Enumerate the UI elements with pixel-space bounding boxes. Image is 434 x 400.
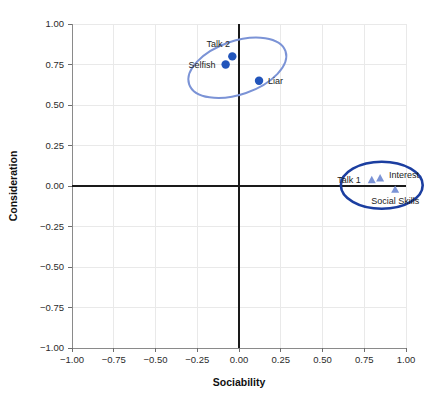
x-axis-tick-labels: −1.00−0.75−0.50−0.250.000.250.500.751.00: [60, 354, 415, 365]
x-tick-label: 0.00: [230, 354, 249, 365]
x-tick-label: 0.75: [355, 354, 374, 365]
data-markers: [221, 52, 399, 193]
y-tick-label: 1.00: [46, 18, 65, 29]
x-axis-title: Sociability: [213, 376, 266, 388]
chart-canvas: Talk 2SelfishLiarTalk 1InterestSocial Sk…: [0, 0, 434, 400]
tick-marks: [68, 24, 406, 352]
data-point-label: Talk 1: [337, 175, 361, 185]
data-point-label: Interest: [389, 170, 420, 180]
y-tick-label: −0.25: [40, 221, 64, 232]
scatter-plot-figure: Talk 2SelfishLiarTalk 1InterestSocial Sk…: [0, 0, 434, 400]
data-point-label: Selfish: [189, 60, 216, 70]
data-point-circle: [255, 77, 263, 85]
y-tick-label: 0.75: [46, 59, 65, 70]
x-tick-label: −0.50: [143, 354, 167, 365]
x-tick-label: 0.50: [313, 354, 332, 365]
data-point-triangle: [376, 174, 384, 181]
x-tick-label: −0.75: [102, 354, 126, 365]
y-tick-label: −0.75: [40, 302, 64, 313]
x-tick-label: 0.25: [272, 354, 291, 365]
y-tick-label: 0.00: [46, 180, 65, 191]
y-axis-title: Consideration: [7, 151, 19, 222]
y-tick-label: 0.50: [46, 99, 65, 110]
data-point-circle: [221, 60, 229, 68]
data-point-triangle: [368, 176, 376, 183]
x-tick-label: −1.00: [60, 354, 84, 365]
data-point-label: Social Skills: [371, 196, 420, 206]
cluster-ellipses: [180, 26, 422, 209]
data-point-label: Liar: [268, 76, 283, 86]
data-point-circle: [228, 52, 236, 60]
data-point-label: Talk 2: [207, 39, 231, 49]
zero-axis-lines: [72, 24, 406, 348]
x-tick-label: −0.25: [185, 354, 209, 365]
y-axis-tick-labels: 1.000.750.500.250.00−0.25−0.50−0.75−1.00: [40, 18, 64, 353]
x-tick-label: 1.00: [397, 354, 416, 365]
y-tick-label: −1.00: [40, 342, 64, 353]
y-tick-label: 0.25: [46, 140, 65, 151]
y-tick-label: −0.50: [40, 261, 64, 272]
